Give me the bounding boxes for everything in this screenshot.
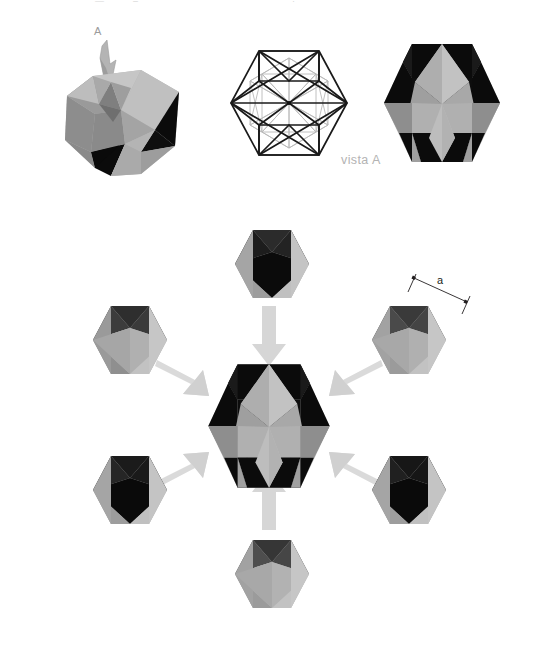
pictorial-view: [55, 18, 195, 193]
illustration-canvas: — – ·: [0, 0, 538, 647]
dimension-label-a: a: [437, 274, 443, 286]
piece-body: [372, 456, 446, 524]
wireframe-center-node: [287, 101, 291, 105]
top-artifact-2: ·: [292, 0, 295, 6]
piece-top-left: [90, 298, 170, 382]
piece-bottom-right: [369, 448, 449, 532]
leader-label-a: A: [94, 25, 102, 37]
wireframe-view: [228, 40, 350, 166]
piece-body: [93, 456, 167, 524]
piece-body: [235, 230, 309, 298]
piece-top: [232, 222, 312, 306]
piece-bottom: [232, 532, 312, 616]
rendered-view-a: [381, 38, 503, 168]
piece-bottom-left: [90, 448, 170, 532]
view-a-caption: vista A: [341, 153, 381, 167]
page-top-artifacts: — – ·: [0, 0, 538, 6]
assembled-solid: [205, 358, 333, 494]
pictorial-solid: [65, 70, 179, 176]
piece-body: [235, 540, 309, 608]
top-artifact-0: —: [95, 0, 104, 6]
assembled-solid-faces: [208, 364, 329, 487]
view-a-solid: [384, 44, 500, 162]
dimension-tick-end: [463, 299, 468, 304]
piece-body: [93, 306, 167, 374]
top-artifact-1: –: [133, 0, 138, 6]
